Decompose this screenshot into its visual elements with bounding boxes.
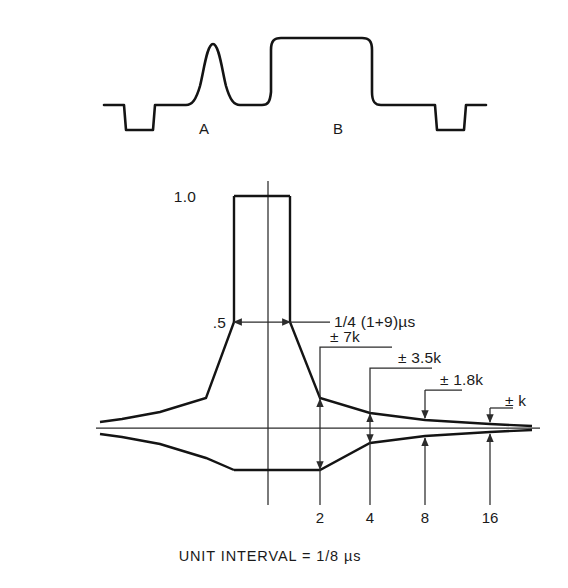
lower-envelope-right: [290, 430, 532, 470]
sample-waveform-trace: [104, 38, 486, 130]
tick-label-16: 16: [482, 509, 499, 526]
tolerance-label-7k: ± 7k: [330, 328, 360, 345]
upper-envelope-right: [290, 322, 532, 426]
upper-envelope-left: [100, 322, 234, 422]
tick-label-8: 8: [421, 509, 429, 526]
technical-diagram-svg: A B 1/4 (1+9)µs 1.0: [0, 0, 568, 588]
pulse-mask-group: 1/4 (1+9)µs 1.0 .5 ± 7k ± 3.5k ± 1.8k ± …: [96, 181, 540, 526]
tolerance-label-1-8k: ± 1.8k: [440, 371, 483, 388]
tolerance-label-k: ± k: [505, 392, 526, 409]
figure-caption: UNIT INTERVAL = 1/8 µs: [179, 548, 362, 564]
tick-label-2: 2: [316, 509, 324, 526]
lower-envelope-left-taper: [100, 434, 234, 470]
amplitude-label-one: 1.0: [174, 188, 196, 205]
tolerance-label-3-5k: ± 3.5k: [398, 349, 441, 366]
tolerance-leader-3-5k: [370, 368, 432, 413]
waveform-label-a: A: [199, 120, 209, 137]
figure-root: A B 1/4 (1+9)µs 1.0: [0, 0, 568, 588]
sample-waveform-group: A B: [104, 38, 486, 137]
waveform-label-b: B: [333, 120, 343, 137]
tolerance-leader-7k: [320, 347, 392, 398]
amplitude-label-half: .5: [213, 314, 226, 331]
tick-label-4: 4: [366, 509, 374, 526]
